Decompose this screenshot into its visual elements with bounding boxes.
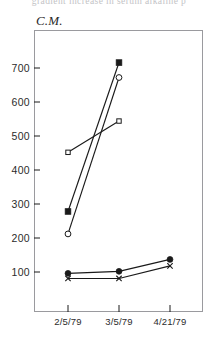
data-series-group bbox=[65, 60, 173, 281]
axis-ticks bbox=[34, 68, 170, 312]
y-tick-label: 200 bbox=[2, 232, 30, 244]
y-tick-label: 400 bbox=[2, 164, 30, 176]
x-tick-label: 4/21/79 bbox=[146, 316, 194, 327]
x-tick-label: 2/5/79 bbox=[44, 316, 92, 327]
x-tick-label: 3/5/79 bbox=[95, 316, 143, 327]
chart-canvas bbox=[0, 0, 218, 340]
y-tick-label: 600 bbox=[2, 96, 30, 108]
y-tick-label: 700 bbox=[2, 62, 30, 74]
y-tick-label: 300 bbox=[2, 198, 30, 210]
y-tick-label: 100 bbox=[2, 266, 30, 278]
y-tick-label: 500 bbox=[2, 130, 30, 142]
